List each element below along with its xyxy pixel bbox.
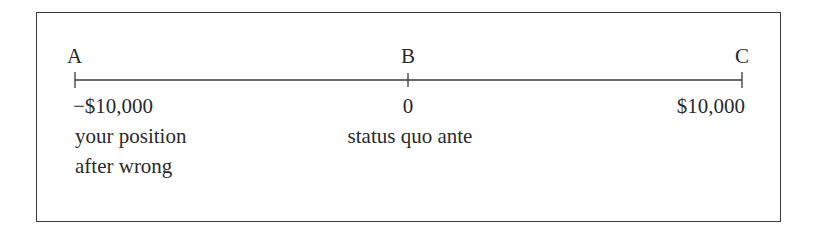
point-a-description-line-2: after wrong — [75, 151, 172, 181]
point-b-description-line-1: status quo ante — [348, 121, 473, 151]
point-b-value: 0 — [403, 91, 414, 121]
point-c-letter: C — [735, 44, 749, 68]
point-a-letter: A — [67, 44, 82, 68]
point-c-value: $10,000 — [677, 91, 745, 121]
point-b-letter: B — [401, 44, 415, 68]
point-a-value: −$10,000 — [73, 91, 153, 121]
point-a-description-line-1: your position — [75, 121, 186, 151]
